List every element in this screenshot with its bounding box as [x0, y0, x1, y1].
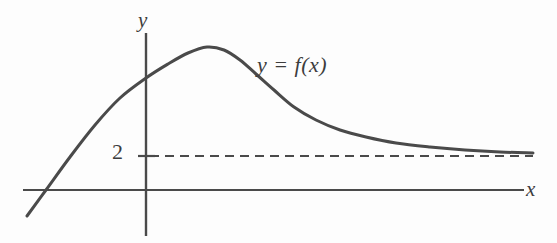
y-axis-label: y: [138, 10, 147, 31]
x-axis-label: x: [526, 179, 535, 200]
math-figure: y x y = f(x) 2: [0, 0, 557, 243]
y-axis-tick-label-2: 2: [112, 141, 123, 163]
graph-canvas: [0, 0, 557, 243]
curve-equation-label: y = f(x): [257, 54, 327, 76]
